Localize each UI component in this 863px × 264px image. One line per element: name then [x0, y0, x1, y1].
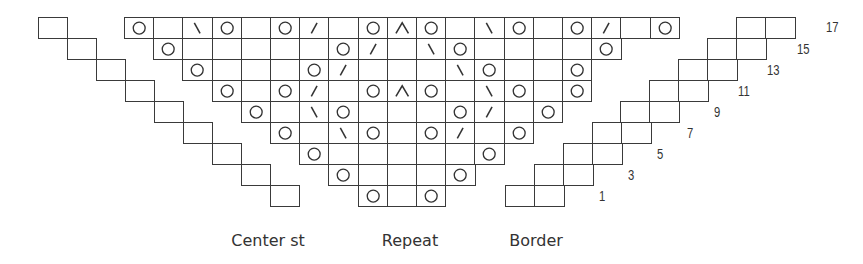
border-cell	[736, 38, 766, 60]
chart-cell	[358, 59, 388, 81]
chart-cell	[387, 164, 417, 186]
chart-cell	[445, 38, 475, 60]
chart-cell	[591, 38, 621, 60]
chart-cell	[270, 122, 300, 144]
chart-cell	[474, 122, 504, 144]
chart-cell	[358, 143, 388, 165]
chart-cell	[387, 17, 417, 39]
chart-cell	[212, 17, 242, 39]
chart-cell	[445, 143, 475, 165]
chart-cell	[533, 38, 563, 60]
chart-cell	[241, 80, 271, 102]
chart-cell	[504, 101, 534, 123]
chart-cell	[212, 59, 242, 81]
chart-cell	[358, 17, 388, 39]
row-number: 11	[738, 83, 750, 98]
chart-cell	[241, 101, 271, 123]
chart-cell	[474, 38, 504, 60]
border-cell	[621, 122, 651, 144]
chart-cell	[153, 38, 183, 60]
border-cell	[649, 80, 679, 102]
center-stitch-cell	[38, 17, 68, 39]
chart-cell	[416, 38, 446, 60]
chart-cell	[299, 38, 329, 60]
center-stitch-cell	[212, 143, 242, 165]
row-number: 1	[599, 188, 605, 203]
border-cell	[678, 59, 708, 81]
chart-cell	[182, 59, 212, 81]
chart-cell	[212, 80, 242, 102]
chart-cell	[387, 122, 417, 144]
chart-cell	[270, 59, 300, 81]
chart-cell	[328, 143, 358, 165]
chart-cell	[416, 122, 446, 144]
chart-cell	[387, 80, 417, 102]
chart-cell	[299, 80, 329, 102]
section-label: Repeat	[382, 231, 438, 250]
center-stitch-cell	[241, 164, 271, 186]
chart-cell	[241, 17, 271, 39]
chart-cell	[328, 59, 358, 81]
chart-cell	[504, 80, 534, 102]
chart-cell	[504, 122, 534, 144]
chart-cell	[445, 17, 475, 39]
border-cell	[563, 164, 593, 186]
border-cell	[534, 185, 564, 207]
chart-cell	[620, 17, 650, 39]
chart-cell	[270, 17, 300, 39]
row-number: 17	[826, 19, 839, 34]
chart-cell	[533, 80, 563, 102]
center-stitch-cell	[154, 101, 184, 123]
border-cell	[707, 38, 737, 60]
chart-cell	[182, 17, 212, 39]
chart-cell	[328, 101, 358, 123]
chart-cell	[358, 164, 388, 186]
chart-cell	[416, 164, 446, 186]
section-label: Center st	[231, 231, 305, 250]
border-cell	[592, 143, 622, 165]
chart-cell	[182, 38, 212, 60]
chart-cell	[328, 164, 358, 186]
chart-cell	[445, 101, 475, 123]
chart-cell	[328, 38, 358, 60]
center-stitch-cell	[67, 38, 97, 60]
chart-cell	[270, 101, 300, 123]
chart-cell	[299, 122, 329, 144]
border-cell	[563, 143, 593, 165]
chart-cell	[445, 122, 475, 144]
chart-cell	[153, 17, 183, 39]
row-number: 13	[767, 62, 780, 77]
row-number: 9	[714, 104, 720, 119]
chart-cell	[358, 38, 388, 60]
chart-cell	[416, 80, 446, 102]
chart-cell	[650, 17, 680, 39]
chart-cell	[562, 17, 592, 39]
border-cell	[707, 59, 737, 81]
chart-cell	[241, 38, 271, 60]
chart-cell	[474, 143, 504, 165]
chart-cell	[299, 101, 329, 123]
chart-cell	[328, 122, 358, 144]
border-cell	[649, 101, 679, 123]
chart-cell	[416, 101, 446, 123]
chart-cell	[328, 80, 358, 102]
center-stitch-cell	[270, 185, 300, 207]
chart-cell	[416, 143, 446, 165]
chart-cell	[270, 80, 300, 102]
chart-cell	[358, 80, 388, 102]
center-stitch-cell	[183, 122, 213, 144]
chart-cell	[533, 59, 563, 81]
border-cell	[505, 185, 535, 207]
knitting-lace-chart: 1715131197531 Center stRepeatBorder	[0, 0, 863, 264]
row-number: 7	[687, 125, 693, 140]
chart-cell	[504, 17, 534, 39]
border-cell	[736, 17, 766, 39]
chart-cell	[504, 59, 534, 81]
chart-cell	[299, 59, 329, 81]
chart-cell	[358, 122, 388, 144]
chart-cell	[387, 101, 417, 123]
chart-cell	[270, 38, 300, 60]
chart-cell	[474, 59, 504, 81]
chart-cell	[474, 80, 504, 102]
border-cell	[765, 17, 795, 39]
